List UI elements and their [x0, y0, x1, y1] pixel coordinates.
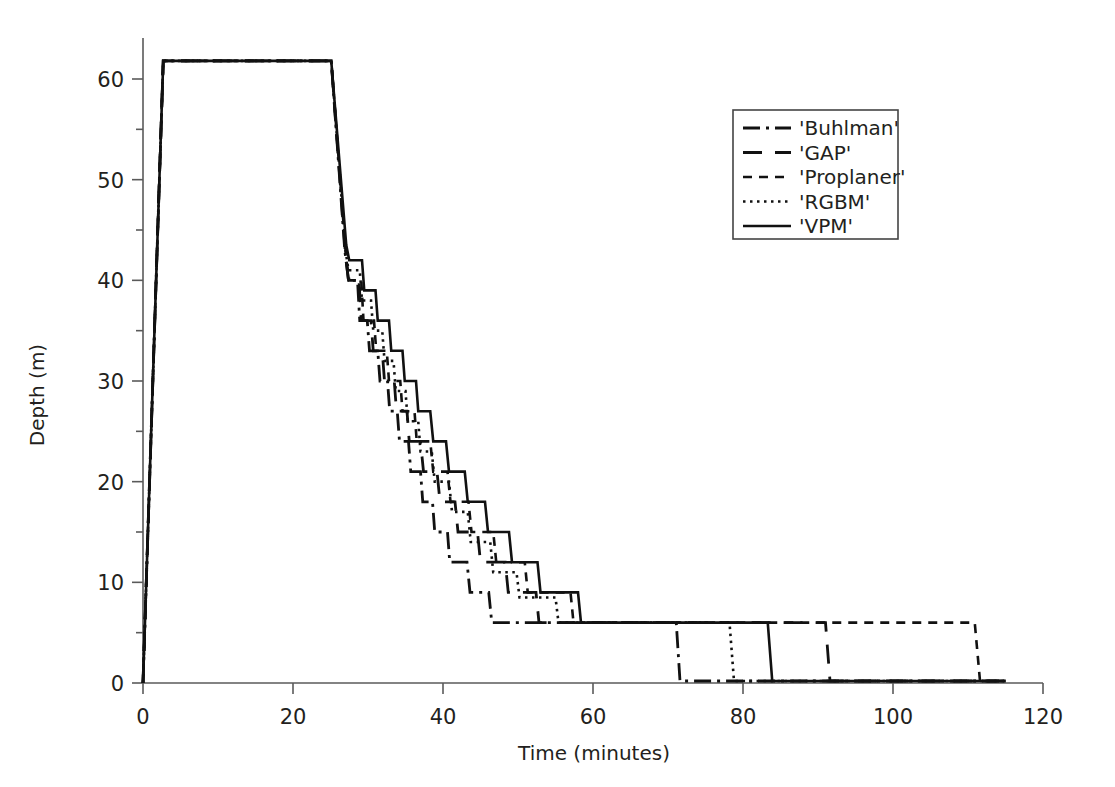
- legend-label: 'VPM': [799, 214, 853, 238]
- legend-label: 'RGBM': [799, 190, 870, 214]
- legend-label: 'GAP': [799, 141, 851, 165]
- x-axis-title: Time (minutes): [517, 741, 670, 765]
- y-tick-label: 30: [97, 370, 124, 394]
- axis-labels-layer: 0204060801001200102030405060: [97, 68, 1063, 729]
- x-tick-label: 40: [430, 705, 457, 729]
- chart-figure: 0204060801001200102030405060 Depth (m) T…: [0, 0, 1115, 787]
- dive-profile-chart: 0204060801001200102030405060 Depth (m) T…: [0, 0, 1115, 787]
- y-tick-label: 0: [111, 672, 124, 696]
- y-tick-label: 50: [97, 169, 124, 193]
- y-tick-label: 20: [97, 471, 124, 495]
- x-tick-label: 0: [136, 705, 149, 729]
- axes-layer: [132, 38, 1043, 694]
- y-axis-title: Depth (m): [25, 344, 49, 446]
- x-tick-label: 100: [873, 705, 913, 729]
- y-tick-label: 60: [97, 68, 124, 92]
- y-tick-label: 10: [97, 571, 124, 595]
- x-tick-label: 20: [280, 705, 307, 729]
- x-tick-label: 80: [730, 705, 757, 729]
- x-tick-label: 120: [1023, 705, 1063, 729]
- legend-label: 'Proplaner': [799, 165, 905, 189]
- legend-label: 'Buhlman': [799, 116, 899, 140]
- x-tick-label: 60: [580, 705, 607, 729]
- y-tick-label: 40: [97, 269, 124, 293]
- legend[interactable]: 'Buhlman''GAP''Proplaner''RGBM''VPM': [733, 110, 905, 239]
